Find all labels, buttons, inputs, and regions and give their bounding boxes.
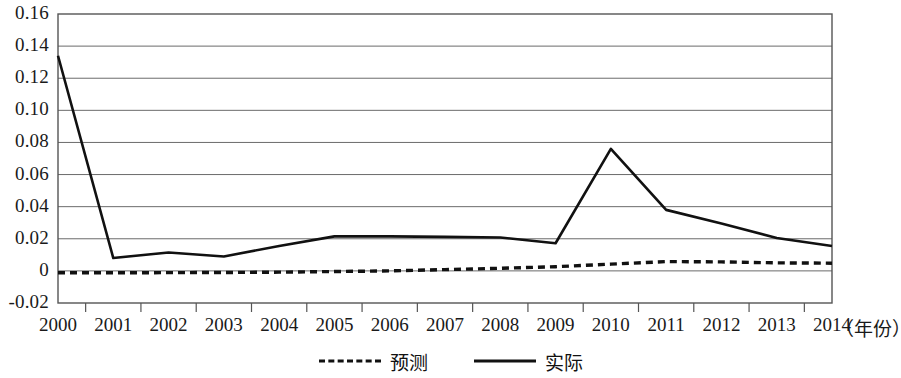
y-axis-tick-label: 0.06	[15, 163, 49, 185]
x-axis-title: （年份）	[835, 314, 901, 341]
y-axis-tick-label: 0.08	[15, 130, 49, 152]
x-axis-tick-label: 2001	[85, 314, 141, 336]
x-axis-tick-label: 2010	[583, 314, 639, 336]
x-axis-tick-label: 2000	[30, 314, 86, 336]
x-axis-tick-label: 2012	[693, 314, 749, 336]
x-axis-ticks-group	[86, 303, 805, 312]
y-axis-tick-label: 0.10	[15, 98, 49, 120]
plot-border	[58, 14, 832, 303]
y-axis-tick-label: 0.04	[15, 195, 49, 217]
chart-legend: 预测 实际	[0, 344, 901, 378]
x-axis-tick-label: 2002	[141, 314, 197, 336]
y-axis-tick-label: 0.14	[15, 34, 49, 56]
data-series-group	[58, 56, 832, 273]
plot-frame-group	[58, 14, 832, 303]
y-axis-tick-label: 0.12	[15, 66, 49, 88]
legend-entry-forecast: 预测	[319, 348, 428, 375]
y-axis-tick-label: -0.02	[8, 291, 49, 313]
series-line-actual	[58, 56, 832, 258]
y-axis-tick-label: 0.02	[15, 227, 49, 249]
x-axis-tick-label: 2009	[528, 314, 584, 336]
chart-figure: -0.0200.020.040.060.080.100.120.140.16 2…	[0, 0, 901, 378]
solid-line-icon	[474, 355, 536, 367]
x-axis-tick-label: 2004	[251, 314, 307, 336]
x-axis-tick-label: 2006	[362, 314, 418, 336]
legend-entry-actual: 实际	[474, 348, 583, 375]
x-axis-tick-label: 2008	[472, 314, 528, 336]
legend-label-actual: 实际	[545, 348, 583, 375]
x-axis-tick-label: 2003	[196, 314, 252, 336]
x-axis-tick-label: 2007	[417, 314, 473, 336]
legend-label-forecast: 预测	[390, 348, 428, 375]
y-axis-tick-label: 0	[39, 259, 49, 281]
x-axis-tick-label: 2013	[749, 314, 805, 336]
y-axis-tick-label: 0.16	[15, 2, 49, 24]
dotted-line-icon	[319, 355, 381, 367]
x-axis-tick-label: 2005	[306, 314, 362, 336]
x-axis-tick-label: 2011	[638, 314, 694, 336]
